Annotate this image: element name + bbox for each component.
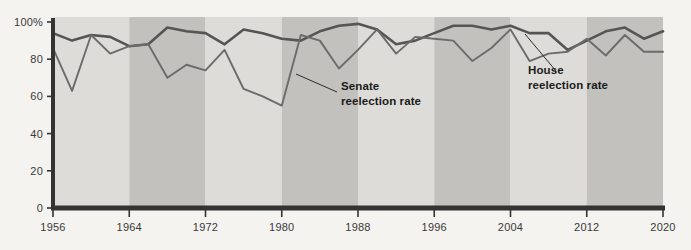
annotation-label-house-line2: reelection rate bbox=[528, 79, 608, 91]
y-tick-label: 100% bbox=[14, 16, 43, 28]
background-band bbox=[53, 17, 129, 208]
y-tick-label: 80 bbox=[30, 53, 43, 65]
y-tick-label: 0 bbox=[37, 202, 43, 214]
background-band bbox=[434, 17, 510, 208]
annotation-label-senate-line2: reelection rate bbox=[341, 95, 421, 107]
background-band bbox=[282, 17, 358, 208]
annotation-label-house-line1: House bbox=[528, 64, 564, 76]
x-tick-label: 1956 bbox=[40, 221, 65, 233]
background-band bbox=[206, 17, 282, 208]
x-tick-label: 1980 bbox=[269, 221, 294, 233]
x-tick-label: 1988 bbox=[345, 221, 370, 233]
y-tick-label: 20 bbox=[30, 165, 43, 177]
annotation-label-senate-line1: Senate bbox=[341, 80, 379, 92]
chart-figure: 020406080100% 19561964197219801988199620… bbox=[0, 0, 691, 250]
y-tick-label: 40 bbox=[30, 128, 43, 140]
reelection-rate-line-chart: 020406080100% 19561964197219801988199620… bbox=[0, 0, 691, 250]
x-tick-label: 1972 bbox=[193, 221, 218, 233]
y-tick-label: 60 bbox=[30, 90, 43, 102]
x-tick-label: 2004 bbox=[498, 221, 523, 233]
background-band bbox=[358, 17, 434, 208]
x-tick-label: 1964 bbox=[117, 221, 142, 233]
x-tick-label: 2012 bbox=[574, 221, 599, 233]
x-tick-label: 2020 bbox=[650, 221, 675, 233]
background-band bbox=[587, 17, 663, 208]
x-tick-label: 1996 bbox=[422, 221, 447, 233]
